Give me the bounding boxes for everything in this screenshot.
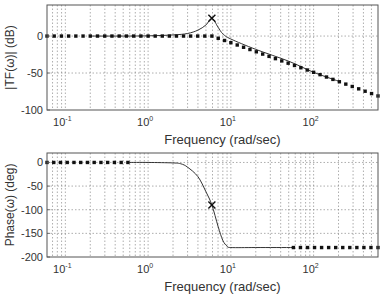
x-tick-label: 102 — [303, 262, 319, 275]
asymptote-dot — [344, 82, 347, 85]
asymptote-dot — [313, 246, 316, 249]
magnitude-plot — [45, 5, 379, 110]
asymptote-dot — [210, 34, 213, 37]
asymptote-dot — [306, 246, 309, 249]
asymptote-dot — [318, 73, 321, 76]
asymptote-dot — [203, 34, 206, 37]
asymptote-dot — [119, 161, 122, 164]
asymptote-dot — [196, 34, 199, 37]
asymptote-dot — [362, 246, 365, 249]
asymptote-dot — [351, 85, 354, 88]
x-tick-label: 100 — [137, 262, 153, 275]
asymptote-dot — [331, 78, 334, 81]
asymptote-dot — [59, 161, 62, 164]
asymptote-dot — [248, 48, 251, 51]
asymptote-dot — [126, 161, 129, 164]
x-axis-label: Frequency (rad/sec) — [164, 279, 280, 294]
asymptote-dot — [99, 161, 102, 164]
asymptote-dot — [60, 34, 63, 37]
asymptote-dot — [217, 37, 220, 40]
asymptote-dot — [168, 34, 171, 37]
y-tick-label: -50 — [27, 180, 43, 192]
asymptote-dot — [72, 161, 75, 164]
asymptote-dot — [363, 90, 366, 93]
y-tick-label: -200 — [21, 251, 43, 263]
asymptote-dot — [242, 46, 245, 49]
asymptote-dot — [299, 66, 302, 69]
asymptote-dot — [286, 61, 289, 64]
asymptote-dot — [89, 34, 92, 37]
asymptote-dot — [79, 161, 82, 164]
y-tick-label: 0 — [37, 30, 43, 42]
asymptote-dot — [66, 161, 69, 164]
asymptote-dot — [341, 246, 344, 249]
asymptote-dot — [67, 34, 70, 37]
asymptote-dot — [255, 50, 258, 53]
y-tick-label: -150 — [21, 227, 43, 239]
asymptote-dot — [334, 246, 337, 249]
asymptote-dot — [139, 34, 142, 37]
asymptote-dot — [223, 39, 226, 42]
y-axis-label: |TF(ω)| (dB) — [3, 25, 17, 89]
asymptote-dot — [103, 34, 106, 37]
asymptote-dot — [369, 246, 372, 249]
asymptote-dot — [96, 34, 99, 37]
asymptote-dot — [299, 246, 302, 249]
x-tick-label: 102 — [303, 115, 319, 128]
asymptote-dot — [189, 34, 192, 37]
y-tick-label: 0 — [37, 156, 43, 168]
y-tick-label: -50 — [27, 67, 43, 79]
asymptote-dot — [81, 34, 84, 37]
asymptote-dot — [182, 34, 185, 37]
asymptote-dot — [86, 161, 89, 164]
x-tick-label: 10-1 — [53, 115, 72, 128]
asymptote-dot — [274, 57, 277, 60]
phase-plot — [45, 153, 379, 257]
x-tick-label: 100 — [137, 115, 153, 128]
x-axis-label: Frequency (rad/sec) — [164, 132, 280, 147]
y-tick-label: -100 — [21, 104, 43, 116]
asymptote-dot — [338, 80, 341, 83]
asymptote-dot — [280, 59, 283, 62]
x-tick-label: 101 — [220, 262, 236, 275]
asymptote-dot — [117, 34, 120, 37]
bode-plot: 0-50-10010-1100101102Frequency (rad/sec)… — [0, 0, 387, 298]
asymptote-dot — [161, 34, 164, 37]
asymptote-dot — [110, 34, 113, 37]
asymptote-dot — [325, 75, 328, 78]
asymptote-dot — [292, 246, 295, 249]
asymptote-dot — [312, 71, 315, 74]
x-tick-label: 101 — [220, 115, 236, 128]
asymptote-dot — [320, 246, 323, 249]
asymptote-dot — [293, 64, 296, 67]
asymptote-dot — [106, 161, 109, 164]
asymptote-dot — [267, 55, 270, 58]
asymptote-dot — [153, 34, 156, 37]
asymptote-dot — [370, 92, 373, 95]
asymptote-dot — [74, 34, 77, 37]
asymptote-dot — [125, 34, 128, 37]
asymptote-dot — [261, 52, 264, 55]
asymptote-dot — [132, 34, 135, 37]
asymptote-dot — [113, 161, 116, 164]
asymptote-dot — [52, 161, 55, 164]
y-tick-label: -100 — [21, 204, 43, 216]
asymptote-dot — [327, 246, 330, 249]
asymptote-dot — [357, 87, 360, 90]
asymptote-dot — [229, 41, 232, 44]
asymptote-dot — [355, 246, 358, 249]
asymptote-dot — [146, 34, 149, 37]
asymptote-dot — [236, 43, 239, 46]
y-axis-label: Phase(ω) (deg) — [3, 164, 17, 247]
asymptote-dot — [175, 34, 178, 37]
x-tick-label: 10-1 — [53, 262, 72, 275]
asymptote-dot — [306, 68, 309, 71]
asymptote-dot — [92, 161, 95, 164]
asymptote-dot — [348, 246, 351, 249]
asymptote-dot — [53, 34, 56, 37]
